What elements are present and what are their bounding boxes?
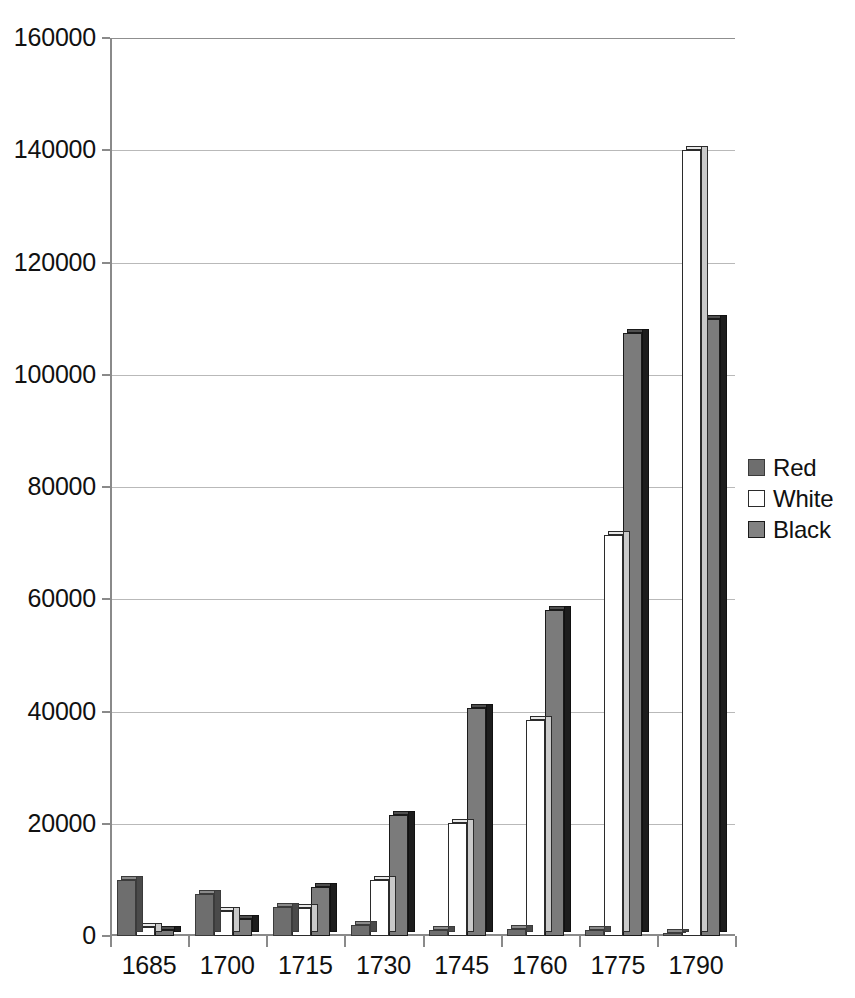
x-tick-mark — [579, 936, 581, 947]
bar-side-face — [604, 926, 611, 932]
y-tick-mark — [102, 486, 110, 488]
bar-side-face — [720, 315, 727, 932]
x-tick-mark — [423, 936, 425, 947]
bar-front-face — [448, 823, 467, 936]
bar-red-1745 — [429, 930, 448, 936]
legend-swatch-white-icon — [748, 490, 765, 507]
y-tick-mark — [102, 823, 110, 825]
bar-front-face — [585, 930, 604, 936]
y-tick-label: 0 — [82, 922, 96, 948]
x-axis-label-1700: 1700 — [200, 950, 255, 980]
x-tick-mark — [657, 936, 659, 947]
bar-side-face — [233, 907, 240, 932]
x-tick-mark — [188, 936, 190, 947]
x-axis-label-1685: 1685 — [122, 950, 177, 980]
bar-red-1790 — [663, 933, 682, 936]
y-tick-label: 140000 — [14, 136, 96, 162]
bar-front-face — [663, 933, 682, 936]
y-tick-mark — [102, 935, 110, 937]
legend-swatch-black-icon — [748, 521, 765, 538]
bar-side-face — [136, 876, 143, 932]
bar-side-face — [252, 915, 259, 932]
y-tick-mark — [102, 37, 110, 39]
x-tick-mark — [344, 936, 346, 947]
x-axis-label-1790: 1790 — [669, 950, 724, 980]
legend-label: Black — [773, 517, 831, 543]
bar-side-face — [467, 819, 474, 932]
x-axis-ticks — [110, 936, 735, 950]
bar-side-face — [701, 146, 708, 932]
bar-side-face — [642, 329, 649, 932]
y-tick-mark — [102, 262, 110, 264]
y-tick-label: 80000 — [27, 473, 96, 499]
legend-item-white[interactable]: White — [748, 483, 850, 514]
x-axis-label-1730: 1730 — [356, 950, 411, 980]
bar-side-face — [623, 531, 630, 932]
x-axis-labels: 16851700171517301745176017751790 — [110, 950, 735, 990]
bars-layer — [110, 38, 735, 936]
bar-side-face — [486, 704, 493, 932]
y-tick-label: 60000 — [27, 585, 96, 611]
bar-side-face — [408, 811, 415, 932]
legend-label: White — [773, 486, 833, 512]
bar-side-face — [564, 606, 571, 932]
bar-side-face — [155, 923, 162, 932]
legend-item-red[interactable]: Red — [748, 452, 850, 483]
bar-red-1700 — [195, 894, 214, 936]
bar-white-1760 — [526, 720, 545, 936]
bar-front-face — [682, 150, 701, 936]
bar-white-1775 — [604, 535, 623, 936]
bar-red-1775 — [585, 930, 604, 936]
bar-front-face — [604, 535, 623, 936]
x-tick-mark — [266, 936, 268, 947]
bar-front-face — [351, 925, 370, 936]
bar-front-face — [507, 929, 526, 936]
y-tick-label: 160000 — [14, 24, 96, 50]
bar-side-face — [214, 890, 221, 932]
y-tick-mark — [102, 374, 110, 376]
bar-front-face — [429, 930, 448, 936]
x-tick-mark — [110, 936, 112, 947]
legend-label: Red — [773, 455, 816, 481]
y-tick-mark — [102, 149, 110, 151]
y-tick-mark — [102, 711, 110, 713]
bar-side-face — [311, 904, 318, 932]
x-tick-mark — [735, 936, 737, 947]
bar-side-face — [448, 926, 455, 932]
bar-front-face — [526, 720, 545, 936]
x-tick-mark — [501, 936, 503, 947]
x-axis-label-1715: 1715 — [278, 950, 333, 980]
y-tick-label: 100000 — [14, 361, 96, 387]
y-tick-mark — [102, 598, 110, 600]
bar-side-face — [292, 903, 299, 932]
bar-front-face — [273, 907, 292, 936]
legend-swatch-red-icon — [748, 459, 765, 476]
bar-side-face — [526, 925, 533, 932]
legend-item-black[interactable]: Black — [748, 514, 850, 545]
bar-front-face — [195, 894, 214, 936]
y-tick-label: 20000 — [27, 810, 96, 836]
bar-side-face — [682, 929, 689, 932]
x-axis-label-1775: 1775 — [590, 950, 645, 980]
y-tick-label: 120000 — [14, 249, 96, 275]
bar-side-face — [389, 876, 396, 932]
bar-red-1685 — [117, 880, 136, 936]
legend: RedWhiteBlack — [748, 452, 850, 545]
bar-side-face — [174, 926, 181, 932]
x-axis-label-1760: 1760 — [512, 950, 567, 980]
bar-front-face — [117, 880, 136, 936]
bar-red-1715 — [273, 907, 292, 936]
bar-white-1790 — [682, 150, 701, 936]
bar-red-1760 — [507, 929, 526, 936]
y-axis: 0200004000060000800001000001200001400001… — [0, 38, 110, 936]
bar-side-face — [330, 883, 337, 932]
bar-red-1730 — [351, 925, 370, 936]
y-tick-label: 40000 — [27, 698, 96, 724]
bar-side-face — [370, 921, 377, 932]
x-axis-label-1745: 1745 — [434, 950, 489, 980]
bar-white-1745 — [448, 823, 467, 936]
bar-chart: 0200004000060000800001000001200001400001… — [0, 0, 855, 998]
bar-side-face — [545, 716, 552, 932]
